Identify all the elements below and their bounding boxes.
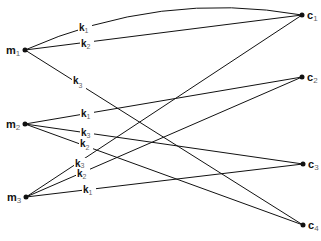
node-label-m3: m3 bbox=[7, 191, 22, 205]
edge-m2-c2-k1 bbox=[25, 77, 302, 124]
node-m2 bbox=[23, 122, 28, 127]
node-c1 bbox=[300, 13, 305, 18]
edge-m2-c3-k3 bbox=[25, 124, 303, 164]
edge-labels: k1 k2 k3 k1 k3 k2 k3 k2 k1 bbox=[72, 22, 96, 196]
node-c3 bbox=[301, 162, 306, 167]
left-nodes: m1 m2 m3 bbox=[6, 44, 29, 205]
node-label-c3: c3 bbox=[308, 158, 319, 172]
edge-m3-c3-k1 bbox=[26, 164, 303, 197]
edge-m3-c1-k3 bbox=[26, 15, 302, 197]
edge-m1-c1-k2 bbox=[25, 15, 302, 50]
bipartite-diagram: k1 k2 k3 k1 k3 k2 k3 k2 k1 m1 m2 m3 c1 c… bbox=[0, 0, 321, 241]
node-c4 bbox=[301, 223, 306, 228]
node-label-c2: c2 bbox=[307, 71, 318, 85]
node-label-c4: c4 bbox=[308, 219, 319, 233]
node-label-c1: c1 bbox=[307, 9, 318, 23]
edge-m2-c4-k2 bbox=[25, 124, 303, 225]
edges bbox=[25, 8, 303, 225]
edge-m1-c1-k1 bbox=[25, 8, 302, 50]
node-m1 bbox=[23, 48, 28, 53]
node-label-m2: m2 bbox=[6, 118, 21, 132]
right-nodes: c1 c2 c3 c4 bbox=[300, 9, 320, 233]
edge-m3-c2-k2 bbox=[26, 77, 302, 197]
node-c2 bbox=[300, 75, 305, 80]
node-label-m1: m1 bbox=[6, 44, 21, 58]
node-m3 bbox=[24, 195, 29, 200]
